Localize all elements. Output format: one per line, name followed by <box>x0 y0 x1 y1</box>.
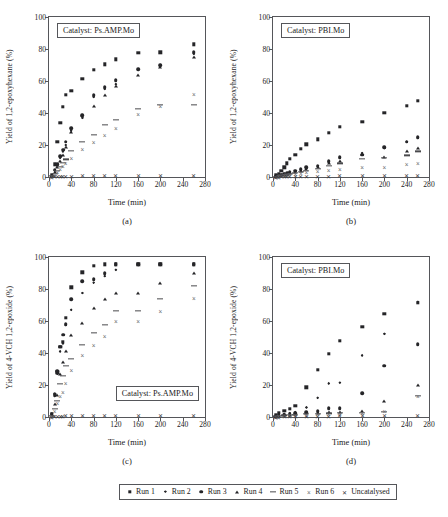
y-tick-mark <box>45 257 49 258</box>
panel-c-letter: (c) <box>48 456 206 466</box>
triangle-marker <box>103 94 107 97</box>
x-marker: ✕ <box>113 413 118 418</box>
legend-label: Run 3 <box>208 487 227 496</box>
cross-marker: × <box>55 400 60 405</box>
cross-marker: × <box>360 165 365 170</box>
x-marker: ✕ <box>326 173 331 178</box>
x-tick-label: 120 <box>334 420 345 429</box>
triangle-marker <box>158 65 162 68</box>
x-tick-label: 200 <box>155 420 166 429</box>
figure-container: Yield of 1,2-epoxyhexane (%) Catalyst: P… <box>0 0 448 517</box>
square-marker <box>360 325 363 328</box>
x-tick-label: 80 <box>90 180 98 189</box>
circle-marker <box>159 262 163 266</box>
diamond-marker <box>114 268 117 271</box>
circle-marker <box>103 86 107 90</box>
cross-marker: × <box>113 126 118 131</box>
x-marker: ✕ <box>382 173 387 178</box>
x-tick-mark <box>429 417 430 421</box>
square-marker <box>305 142 308 145</box>
square-marker <box>299 147 302 150</box>
legend-item: Run 3 <box>198 487 227 496</box>
diamond-marker <box>162 488 169 495</box>
dash-marker <box>68 358 74 359</box>
x-marker: ✕ <box>304 173 309 178</box>
legend-item: Run 1 <box>126 487 155 496</box>
cross-marker: × <box>60 390 65 395</box>
circle-marker <box>64 322 68 326</box>
x-tick-mark <box>183 177 184 181</box>
triangle-marker <box>234 488 241 495</box>
diamond-marker <box>59 350 62 353</box>
panel-d-y-axis-label: Yield of 4-VCH 1,2-epoxide (%) <box>226 256 240 418</box>
legend-label: Run 4 <box>244 487 263 496</box>
x-tick-label: 160 <box>132 420 143 429</box>
panel-b-letter: (b) <box>272 216 430 226</box>
x-marker: ✕ <box>191 172 196 177</box>
x-tick-label: 40 <box>291 420 299 429</box>
square-marker <box>114 58 117 61</box>
y-tick-mark <box>45 353 49 354</box>
triangle-marker <box>80 114 84 117</box>
dash-marker <box>191 285 197 286</box>
panel-b-catalyst-label: Catalyst: PBI.Mo <box>281 23 350 38</box>
cross-marker: × <box>382 164 387 169</box>
cross-marker: × <box>404 162 409 167</box>
dash-marker <box>135 310 141 311</box>
x-marker: ✕ <box>80 413 85 418</box>
circle-marker <box>199 490 203 494</box>
y-tick-mark <box>269 49 273 50</box>
dash-marker <box>113 310 119 311</box>
triangle-marker <box>114 84 118 87</box>
triangle-marker <box>64 146 68 149</box>
panel-a: Yield of 1,2-epoxyhexane (%) Catalyst: P… <box>0 0 226 240</box>
cross-marker: × <box>158 103 163 108</box>
x-tick-mark <box>205 177 206 181</box>
legend-item: ✕Uncatalysed <box>341 487 390 496</box>
dash-marker <box>270 491 276 492</box>
panel-c-catalyst-label: Catalyst: Ps.AMP.Mo <box>116 386 199 401</box>
diamond-marker <box>361 354 364 357</box>
square-marker <box>338 125 341 128</box>
x-tick-label: 40 <box>291 180 299 189</box>
circle-marker <box>192 262 196 266</box>
legend-item: ×Run 6 <box>305 487 334 496</box>
circle-marker <box>103 271 107 275</box>
triangle-marker <box>360 152 364 155</box>
triangle-marker <box>382 400 386 403</box>
x-tick-label: 160 <box>356 420 367 429</box>
panel-a-catalyst-label: Catalyst: Ps.AMP.Mo <box>57 23 140 38</box>
cross-marker: × <box>337 167 342 172</box>
y-tick-mark <box>269 289 273 290</box>
cross-marker: × <box>69 367 74 372</box>
square-marker <box>294 404 297 407</box>
cross-marker: × <box>136 319 141 324</box>
triangle-marker <box>92 307 96 310</box>
triangle-marker <box>61 360 65 363</box>
square-marker <box>64 93 67 96</box>
x-tick-label: 80 <box>314 420 322 429</box>
circle-marker <box>136 262 140 266</box>
circle-marker <box>383 146 387 150</box>
square-marker <box>128 490 131 493</box>
cross-marker: × <box>158 309 163 314</box>
square-marker <box>126 488 133 495</box>
legend-label: Run 2 <box>172 487 191 496</box>
x-marker: ✕ <box>326 413 331 418</box>
square-marker <box>56 140 59 143</box>
x-tick-label: 280 <box>423 420 434 429</box>
circle-marker <box>58 345 62 349</box>
cross-marker: × <box>306 489 311 494</box>
panel-a-x-axis-label: Time (min) <box>48 198 206 207</box>
dash-marker <box>91 134 97 135</box>
triangle-marker <box>158 282 162 285</box>
circle-marker <box>405 140 409 144</box>
dash-marker <box>381 157 387 158</box>
x-marker: ✕ <box>342 489 347 494</box>
panel-d-catalyst-label: Catalyst: PBI.Mo <box>281 263 350 278</box>
dash-marker <box>102 324 108 325</box>
panel-a-y-axis-label: Yield of 1,2-epoxyhexane (%) <box>2 16 16 178</box>
legend-label: Run 5 <box>279 487 298 496</box>
circle-marker <box>327 406 331 410</box>
x-marker: ✕ <box>80 173 85 178</box>
